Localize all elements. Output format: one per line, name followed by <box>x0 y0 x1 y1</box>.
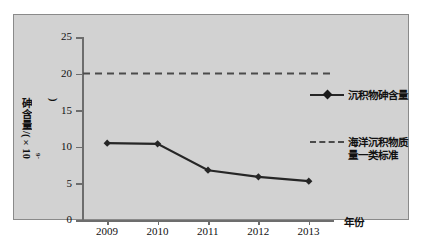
legend-solid-line-icon <box>310 89 348 101</box>
legend-label-standard-line2: 量一类标准 <box>348 149 422 162</box>
x-tick-label-2012: 2012 <box>235 225 281 237</box>
legend-entry-standard[interactable]: 海洋沉积物质 量一类标准 <box>310 136 422 162</box>
sediment-arsenic-line <box>107 143 309 181</box>
chart-legend: 沉积物砷含量 海洋沉积物质 量一类标准 <box>310 89 422 196</box>
data-point-2012 <box>255 173 262 180</box>
legend-label-sediment: 沉积物砷含量 <box>348 89 408 102</box>
y-tick-label-25: 25 <box>44 31 72 42</box>
x-tick-label-2013: 2013 <box>286 225 332 237</box>
y-tick-label-5: 5 <box>44 178 72 189</box>
chart-figure: 25 20 15 10 5 0 2009 2010 2011 2012 2013… <box>0 0 424 245</box>
legend-dashed-line-icon <box>310 136 348 148</box>
y-axis-title: 砷含量/(×10-6) <box>31 73 47 183</box>
y-tick-0 <box>76 220 82 222</box>
y-tick-label-20: 20 <box>44 68 72 79</box>
data-point-2009 <box>104 140 111 147</box>
y-tick-label-0: 0 <box>44 214 72 225</box>
legend-label-standard-line1: 海洋沉积物质 <box>348 136 408 149</box>
x-tick-label-2009: 2009 <box>84 225 130 237</box>
legend-entry-sediment[interactable]: 沉积物砷含量 <box>310 89 422 102</box>
data-series-plot <box>82 37 334 220</box>
chart-panel: 25 20 15 10 5 0 2009 2010 2011 2012 2013… <box>13 14 409 220</box>
x-tick-label-2011: 2011 <box>185 225 231 237</box>
diamond-marker-icon <box>323 90 333 100</box>
x-tick-label-2010: 2010 <box>134 225 180 237</box>
x-axis-title: 年份 <box>344 214 364 229</box>
